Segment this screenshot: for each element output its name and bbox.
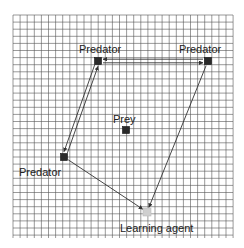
predator-top-left-label: Predator	[79, 44, 121, 55]
prey-marker	[123, 127, 130, 134]
prey-label: Prey	[113, 114, 136, 125]
learning-agent-label: Learning agent	[120, 223, 193, 234]
edge-predator-top-left-to-predator-left	[64, 65, 95, 152]
predator-left-label: Predator	[19, 167, 61, 178]
learning-agent-marker	[143, 208, 151, 216]
predator-left-marker	[61, 154, 68, 161]
predator-top-left-marker	[95, 58, 102, 65]
predator-top-right-label: Predator	[179, 44, 221, 55]
predator-top-right-marker	[205, 58, 212, 65]
edges	[64, 59, 206, 209]
